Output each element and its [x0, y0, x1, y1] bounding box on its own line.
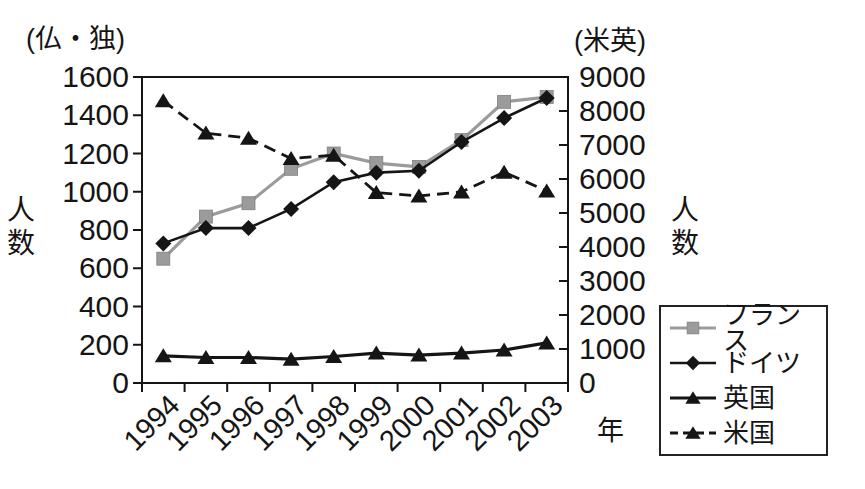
left-axis-tick-label: 0 [112, 366, 129, 399]
triangle-marker [240, 131, 257, 145]
right-axis-tick-label: 9000 [579, 60, 646, 93]
diamond-marker [326, 174, 342, 190]
left-axis-tick-label: 1600 [62, 60, 129, 93]
triangle-marker [496, 165, 513, 179]
right-axis-title: 人数 [669, 194, 701, 260]
right-axis-tick-label: 7000 [579, 128, 646, 161]
legend-item-germany: ドイツ [668, 346, 822, 380]
legend-line-diamond-icon [668, 350, 718, 376]
legend-label-uk: 英国 [723, 385, 775, 411]
legend-label-germany: ドイツ [723, 350, 801, 376]
left-axis-tick-label: 600 [79, 251, 129, 284]
right-axis-unit-label: (米英) [574, 27, 646, 57]
legend-line-square-icon [668, 315, 718, 341]
series-line-2 [163, 343, 546, 359]
right-axis-tick-label: 3000 [579, 264, 646, 297]
legend-item-us: 米国 [668, 416, 822, 450]
triangle-marker [538, 183, 555, 197]
left-axis-tick-label: 200 [79, 328, 129, 361]
right-axis-tick-label: 4000 [579, 230, 646, 263]
right-axis: 0100020003000400050006000700080009000 [559, 60, 646, 399]
x-axis-title: 年 [597, 417, 624, 447]
legend: フランス ドイツ 英国 米国 [659, 305, 828, 456]
legend-item-france: フランス [668, 311, 822, 345]
legend-dashed-line-triangle-icon [668, 420, 718, 446]
right-axis-tick-label: 6000 [579, 162, 646, 195]
left-axis-tick-label: 400 [79, 290, 129, 323]
x-axis: 1994199519961997199819992000200120022003 [117, 383, 569, 457]
square-marker [687, 322, 699, 334]
square-marker [157, 252, 170, 265]
left-axis-title: 人数 [5, 194, 37, 260]
series-2 [155, 335, 555, 365]
legend-item-uk: 英国 [668, 381, 822, 415]
left-axis-unit-label: (仏・独) [26, 25, 125, 55]
right-axis-tick-label: 1000 [579, 332, 646, 365]
square-marker [498, 95, 511, 108]
triangle-marker [155, 93, 172, 107]
chart-figure: 0200400600800100012001400160001000200030… [0, 0, 865, 489]
right-axis-tick-label: 8000 [579, 94, 646, 127]
triangle-marker [283, 151, 300, 165]
right-axis-tick-label: 2000 [579, 298, 646, 331]
diamond-marker [241, 220, 257, 236]
diamond-marker [496, 110, 512, 126]
right-axis-tick-label: 0 [579, 366, 596, 399]
triangle-marker [453, 184, 470, 198]
legend-line-triangle-icon [668, 385, 718, 411]
right-axis-tick-label: 5000 [579, 196, 646, 229]
diamond-marker [686, 356, 700, 370]
square-marker [242, 197, 255, 210]
series-1 [155, 90, 554, 251]
left-axis-tick-label: 1400 [62, 98, 129, 131]
left-axis-tick-label: 1200 [62, 137, 129, 170]
diamond-marker [283, 201, 299, 217]
left-axis: 02004006008001000120014001600 [62, 60, 143, 399]
left-axis-tick-label: 1000 [62, 175, 129, 208]
legend-label-us: 米国 [723, 420, 775, 446]
left-axis-tick-label: 800 [79, 213, 129, 246]
series-line-1 [163, 98, 546, 243]
diamond-marker [155, 235, 171, 251]
